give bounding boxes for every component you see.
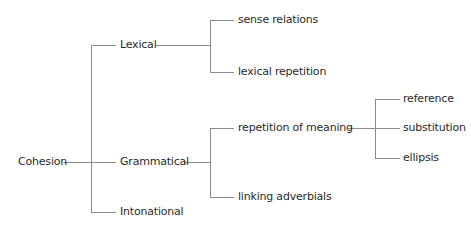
node-lexical: Lexical <box>120 38 157 52</box>
node-grammatical: Grammatical <box>120 155 189 169</box>
node-reference: reference <box>403 92 454 106</box>
node-linking-adverbials: linking adverbials <box>238 190 331 204</box>
node-lexical-repetition: lexical repetition <box>238 65 326 79</box>
cohesion-tree-diagram: Cohesion Lexical Grammatical Intonationa… <box>0 0 471 228</box>
node-repetition-of-meaning: repetition of meaning <box>238 121 353 135</box>
node-intonational: Intonational <box>120 205 183 219</box>
node-cohesion: Cohesion <box>18 155 67 169</box>
node-sense-relations: sense relations <box>238 13 318 27</box>
node-ellipsis: ellipsis <box>403 151 439 165</box>
node-substitution: substitution <box>403 121 466 135</box>
connector-lines <box>0 0 471 228</box>
